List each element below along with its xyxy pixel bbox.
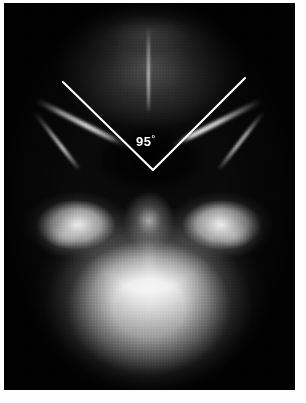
radiograph-page: 95° — [0, 0, 306, 403]
degree-symbol: ° — [151, 133, 155, 143]
angle-ray-left — [63, 82, 153, 170]
angle-ray-right — [153, 78, 245, 170]
angle-value-label: 95° — [136, 133, 156, 149]
angle-value-text: 95 — [136, 134, 151, 149]
radiograph-film: 95° — [4, 3, 295, 390]
angle-annotation-overlay — [4, 3, 295, 390]
angle-rays — [63, 78, 245, 170]
